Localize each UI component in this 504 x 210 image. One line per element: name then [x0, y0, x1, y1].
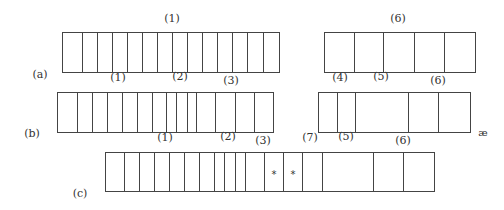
cell-a-left-6 — [143, 33, 158, 73]
cell-b-right-4 — [409, 93, 439, 133]
cell-c-main-1 — [106, 153, 125, 192]
cell-a-right-5 — [445, 33, 476, 73]
region-label-c-6: (6) — [395, 134, 411, 147]
cell-a-left-11 — [218, 33, 233, 73]
cell-b-left-11 — [197, 93, 216, 133]
cell-b-left-4 — [108, 93, 123, 133]
cell-b-left-14 — [255, 93, 274, 133]
cell-b-left-13 — [236, 93, 255, 133]
cell-b-left-12 — [216, 93, 236, 133]
cell-a-left-7 — [158, 33, 173, 73]
cell-b-left-7 — [153, 93, 167, 133]
cell-a-left-14 — [264, 33, 280, 73]
cell-b-left-9 — [177, 93, 188, 133]
cell-b-right-1 — [319, 93, 338, 133]
cell-a-left-5 — [128, 33, 143, 73]
cell-b-left-5 — [123, 93, 138, 133]
cell-c-main-5 — [170, 153, 185, 192]
cell-b-left-8 — [167, 93, 177, 133]
cell-a-left-12 — [233, 33, 248, 73]
cell-a-left-13 — [248, 33, 264, 73]
cell-c-main-4 — [155, 153, 170, 192]
row-label-c: (c) — [73, 187, 88, 200]
cell-c-main-3 — [140, 153, 155, 192]
cell-c-main-15 — [323, 153, 374, 192]
memory-layout-diagram: ** (a)(1)(6)(b)(1)(2)(3)(4)(5)(6)æ(c)(1)… — [0, 0, 504, 210]
row-label-b: (b) — [24, 127, 40, 140]
cell-a-left-10 — [203, 33, 218, 73]
region-label-b-2: (2) — [172, 70, 188, 83]
region-label-b-3: (3) — [223, 74, 239, 87]
cell-a-left-3 — [98, 33, 113, 73]
cell-c-main-11 — [246, 153, 265, 192]
region-label-c-3: (3) — [255, 134, 271, 147]
region-label-b-5: (5) — [373, 70, 389, 83]
asterisk-mark: * — [291, 169, 296, 180]
region-label-c-1: (1) — [157, 131, 173, 144]
cell-b-left-6 — [138, 93, 153, 133]
cell-c-main-2 — [125, 153, 140, 192]
region-label-b-1: (1) — [110, 71, 126, 84]
cell-a-left-9 — [188, 33, 203, 73]
region-label-a-2: (6) — [390, 12, 406, 25]
cell-b-left-2 — [78, 93, 93, 133]
region-label-a-1: (1) — [164, 12, 180, 25]
cell-b-left-1 — [58, 93, 78, 133]
cell-b-left-10 — [188, 93, 197, 133]
cell-a-right-1 — [325, 33, 355, 73]
region-label-b-6: (6) — [430, 74, 446, 87]
region-label-c-5: (5) — [338, 130, 354, 143]
cell-b-right-3 — [356, 93, 409, 133]
cell-c-main-9 — [225, 153, 236, 192]
cell-b-right-2 — [338, 93, 356, 133]
cell-a-left-2 — [83, 33, 98, 73]
cell-c-main-10 — [236, 153, 246, 192]
trailing-mark: æ — [478, 127, 487, 138]
region-label-b-4: (4) — [332, 71, 348, 84]
cell-a-left-8 — [173, 33, 188, 73]
cell-c-main-16 — [374, 153, 404, 192]
region-label-c-4: (7) — [302, 131, 318, 144]
cell-b-right-5 — [439, 93, 471, 133]
cell-c-main-14 — [303, 153, 323, 192]
asterisk-mark: * — [272, 169, 277, 180]
cell-c-main-7 — [200, 153, 215, 192]
cell-a-left-4 — [113, 33, 128, 73]
cell-c-main-8 — [215, 153, 225, 192]
cell-c-main-17 — [404, 153, 435, 192]
cell-b-left-3 — [93, 93, 108, 133]
row-label-a: (a) — [32, 68, 47, 81]
cell-a-right-3 — [384, 33, 415, 73]
cell-c-main-6 — [185, 153, 200, 192]
cell-a-right-2 — [355, 33, 384, 73]
cell-a-left-1 — [63, 33, 83, 73]
region-label-c-2: (2) — [220, 130, 236, 143]
cell-a-right-4 — [415, 33, 445, 73]
